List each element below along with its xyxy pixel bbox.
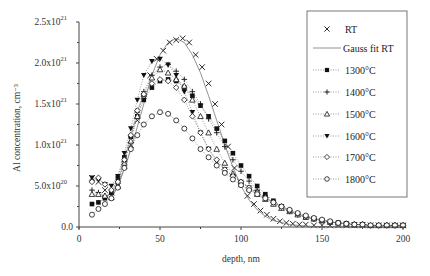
y-tick-label: 2.0x1021 (34, 55, 67, 68)
legend-label: 1400°C (345, 87, 376, 98)
legend-label: RT (345, 24, 357, 35)
legend-box (307, 11, 407, 197)
legend-label: 1300°C (345, 65, 376, 76)
y-tick-label: 1.0x1021 (34, 137, 67, 150)
x-tick-label: 0 (77, 234, 82, 244)
y-tick-label: 5.0x1020 (34, 178, 67, 191)
y-tick-label: 0.0 (61, 222, 73, 232)
x-tick-label: 100 (234, 234, 249, 244)
al-concentration-depth-chart: 0501001502000.05.0x10201.0x10211.5x10212… (0, 0, 430, 276)
y-axis-title: Al concentration, cm⁻³ (12, 84, 22, 172)
legend-label: 1500°C (345, 109, 376, 120)
x-tick-label: 200 (396, 234, 411, 244)
x-tick-label: 150 (315, 234, 330, 244)
x-axis-title: depth, nm (222, 254, 261, 264)
x-tick-label: 50 (155, 234, 165, 244)
legend: RTGauss fit RT1300°C1400°C1500°C1600°C17… (307, 11, 407, 197)
y-tick-label: 1.5x1021 (34, 96, 67, 109)
legend-label: 1700°C (345, 152, 376, 163)
legend-label: 1600°C (345, 131, 376, 142)
y-tick-label: 2.5x1021 (34, 14, 67, 27)
legend-label: Gauss fit RT (343, 43, 394, 54)
legend-label: 1800°C (345, 174, 376, 185)
